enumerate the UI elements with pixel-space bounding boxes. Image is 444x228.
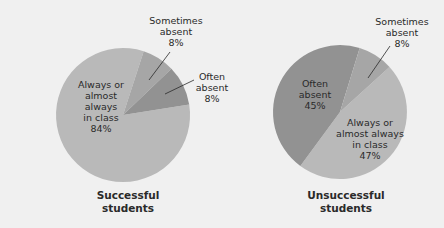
title-unsuccessful: Unsuccessful students (298, 189, 394, 214)
label-line: Sometimes (370, 16, 434, 27)
label-line: in class (66, 112, 136, 123)
label-line: 8% (192, 93, 232, 104)
label-sometimes-unsuccessful: Sometimes absent 8% (370, 16, 434, 49)
label-line: Often (290, 78, 340, 89)
label-line: absent (370, 27, 434, 38)
label-often-successful: Often absent 8% (192, 71, 232, 104)
label-line: absent (192, 82, 232, 93)
title-successful: Successful students (83, 189, 173, 214)
title-line: Unsuccessful (298, 189, 394, 202)
label-line: always (66, 101, 136, 112)
label-line: 8% (370, 38, 434, 49)
label-always-unsuccessful: Always or almost always in class 47% (330, 117, 410, 161)
label-line: absent (290, 89, 340, 100)
label-line: in class (330, 139, 410, 150)
label-line: Sometimes (146, 15, 206, 26)
label-always-successful: Always or almost always in class 84% (66, 79, 136, 134)
label-line: Always or (330, 117, 410, 128)
label-line: 45% (290, 100, 340, 111)
title-line: Successful (83, 189, 173, 202)
label-line: Often (192, 71, 232, 82)
label-often-unsuccessful: Often absent 45% (290, 78, 340, 111)
label-line: almost (66, 90, 136, 101)
label-line: 47% (330, 150, 410, 161)
label-line: Always or (66, 79, 136, 90)
label-line: 84% (66, 123, 136, 134)
title-line: students (83, 202, 173, 215)
label-line: 8% (146, 37, 206, 48)
label-sometimes-successful: Sometimes absent 8% (146, 15, 206, 48)
label-line: almost always (330, 128, 410, 139)
title-line: students (298, 202, 394, 215)
label-line: absent (146, 26, 206, 37)
